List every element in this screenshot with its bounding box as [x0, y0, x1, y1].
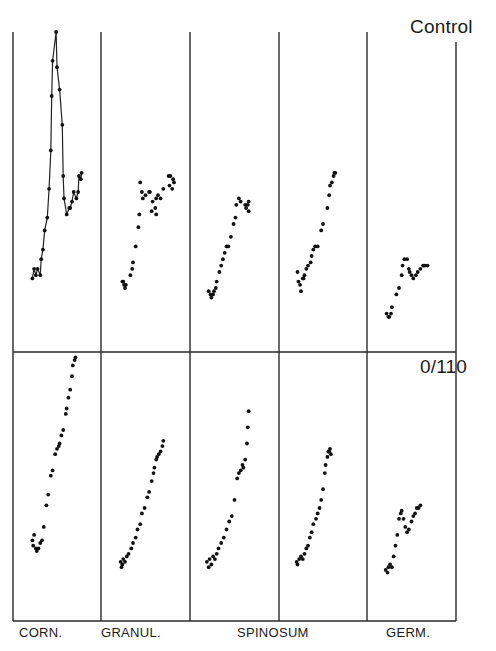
data-point [234, 203, 238, 207]
data-point [328, 447, 332, 451]
data-point [310, 530, 314, 534]
data-point [413, 512, 417, 516]
data-point [43, 229, 47, 233]
data-point [218, 270, 222, 274]
data-point [171, 177, 175, 181]
data-points [31, 30, 430, 574]
data-point [168, 184, 172, 188]
data-point [61, 428, 65, 432]
data-point [136, 528, 140, 532]
data-point [208, 557, 212, 561]
data-point [223, 251, 227, 255]
data-point [131, 541, 135, 545]
data-point [321, 222, 325, 226]
data-point [60, 434, 64, 438]
data-point [61, 174, 65, 178]
data-point [327, 193, 331, 197]
data-point [316, 245, 320, 249]
data-point [213, 557, 217, 561]
data-point [411, 277, 415, 281]
column-label-corn: CORN. [19, 625, 62, 640]
data-point [144, 193, 148, 197]
data-point [205, 560, 209, 564]
data-point [407, 267, 411, 271]
data-point [58, 442, 62, 446]
data-point [70, 200, 74, 204]
data-point [402, 517, 406, 521]
data-point [247, 409, 251, 413]
data-point [45, 503, 49, 507]
data-point [65, 213, 69, 217]
data-point [77, 174, 81, 178]
data-point [319, 498, 323, 502]
data-point [211, 293, 215, 297]
data-point [230, 514, 234, 518]
data-point [49, 474, 53, 478]
data-point [318, 506, 322, 510]
data-point [390, 565, 394, 569]
data-point [408, 270, 412, 274]
data-point [397, 286, 401, 290]
data-point [246, 203, 250, 207]
data-point [419, 503, 423, 507]
data-point [229, 235, 233, 239]
data-point [64, 412, 68, 416]
data-point [326, 206, 330, 210]
data-point [123, 286, 127, 290]
data-point [247, 209, 251, 213]
data-point [242, 466, 246, 470]
data-point [129, 273, 133, 277]
data-point [130, 267, 134, 271]
data-point [76, 190, 80, 194]
data-point [138, 181, 142, 185]
data-point [225, 528, 229, 532]
data-point [75, 197, 79, 201]
data-point [45, 216, 49, 220]
data-point [403, 525, 407, 529]
data-point [392, 555, 396, 559]
data-point [51, 469, 55, 473]
panel-frame [13, 32, 456, 621]
data-point [243, 458, 247, 462]
data-point [419, 267, 423, 271]
data-point [319, 229, 323, 233]
data-point [328, 184, 332, 188]
data-point [232, 222, 236, 226]
data-point [58, 88, 62, 92]
data-point [416, 270, 420, 274]
data-point [207, 289, 211, 293]
data-point [221, 257, 225, 261]
data-point [235, 477, 239, 481]
data-point [397, 517, 401, 521]
data-point [65, 407, 69, 411]
data-point [79, 177, 83, 181]
data-point [324, 463, 328, 467]
data-point [407, 528, 411, 532]
data-point [400, 509, 404, 513]
data-point [74, 356, 78, 360]
data-point [172, 181, 176, 185]
data-point [304, 267, 308, 271]
data-point [332, 174, 336, 178]
data-point [306, 544, 310, 548]
data-point [385, 312, 389, 316]
data-point [227, 520, 231, 524]
data-point [309, 261, 313, 265]
data-point [150, 479, 154, 483]
data-point [395, 293, 399, 297]
data-point [152, 471, 156, 475]
data-point [207, 565, 211, 569]
data-point [143, 506, 147, 510]
data-point [297, 280, 301, 284]
data-point [36, 267, 40, 271]
data-point [134, 245, 138, 249]
data-point [50, 94, 54, 98]
data-point [51, 59, 55, 63]
data-point [124, 283, 128, 287]
data-point [394, 544, 398, 548]
data-point [55, 65, 59, 69]
data-point [233, 498, 237, 502]
data-point [127, 552, 131, 556]
data-point [329, 452, 333, 456]
data-point [310, 254, 314, 258]
